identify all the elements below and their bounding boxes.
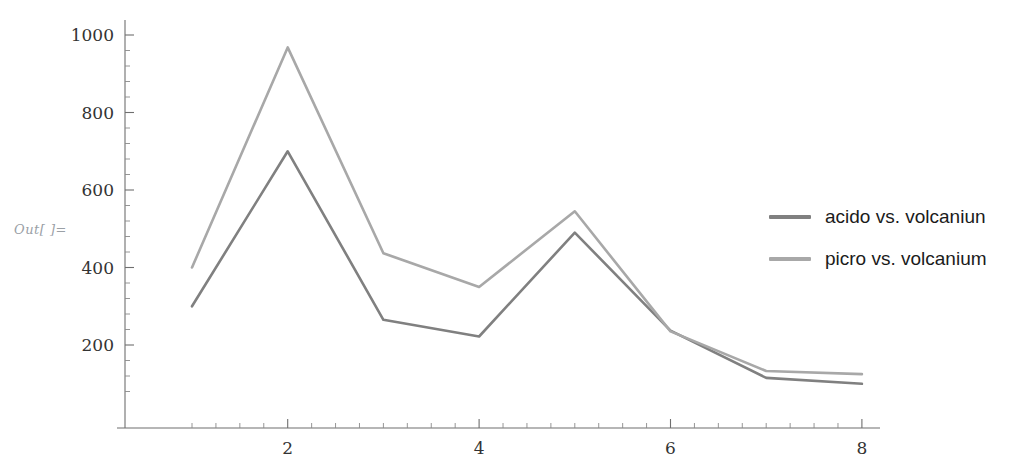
legend-item: acido vs. volcaniun xyxy=(769,196,1009,238)
x-tick-label: 8 xyxy=(856,438,867,458)
y-tick-label: 1000 xyxy=(71,25,114,45)
notebook-output-cell: Out[ ]= 20040060080010002468 acido vs. v… xyxy=(0,0,1009,462)
y-tick-label: 800 xyxy=(82,103,114,123)
series-line-picro xyxy=(192,47,862,374)
legend-line-swatch-acido xyxy=(769,215,811,219)
y-tick-label: 600 xyxy=(82,180,114,200)
legend-item: picro vs. volcanium xyxy=(769,238,1009,280)
series-line-acido xyxy=(192,151,862,383)
y-tick-label: 400 xyxy=(82,258,114,278)
x-tick-label: 6 xyxy=(665,438,676,458)
legend-line-swatch-picro xyxy=(769,257,811,261)
line-chart: 20040060080010002468 acido vs. volcaniun… xyxy=(0,0,1009,462)
x-tick-label: 2 xyxy=(282,438,293,458)
legend-label-acido: acido vs. volcaniun xyxy=(825,206,986,228)
y-tick-label: 200 xyxy=(82,335,114,355)
legend-label-picro: picro vs. volcanium xyxy=(825,248,987,270)
x-tick-label: 4 xyxy=(474,438,485,458)
chart-legend: acido vs. volcaniun picro vs. volcanium xyxy=(769,196,1009,280)
